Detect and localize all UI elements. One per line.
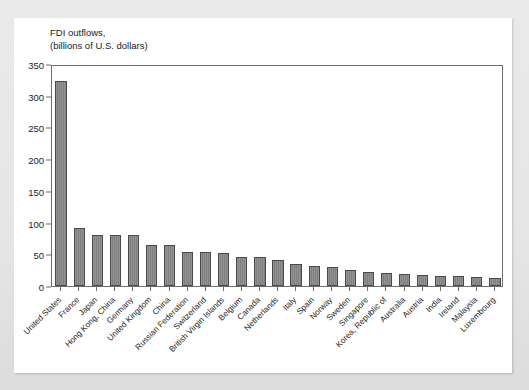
- y-tick-label: 150: [28, 186, 44, 197]
- bar-malaysia: [471, 64, 482, 286]
- x-tick-mark: [385, 287, 386, 291]
- x-tick-mark: [223, 287, 224, 291]
- bars-layer: [52, 66, 502, 286]
- bar-rect: [200, 252, 211, 286]
- x-tick-mark: [367, 287, 368, 291]
- x-tick-mark: [331, 287, 332, 291]
- x-tick-mark: [494, 287, 495, 291]
- x-tick-mark: [96, 287, 97, 291]
- bar-singapore: [363, 64, 374, 286]
- bar-france: [74, 64, 85, 286]
- bar-rect: [381, 273, 392, 286]
- y-tick-mark: [46, 65, 51, 66]
- x-tick-mark: [440, 287, 441, 291]
- bar-hong-kong-china: [110, 64, 121, 286]
- x-tick-mark: [259, 287, 260, 291]
- bar-japan: [92, 64, 103, 286]
- bar-belgium: [236, 64, 247, 286]
- x-tick-mark: [313, 287, 314, 291]
- y-tick-mark: [46, 287, 51, 288]
- x-tick-mark: [295, 287, 296, 291]
- y-tick-mark: [46, 160, 51, 161]
- bar-rect: [453, 276, 464, 286]
- bar-british-virgin-islands: [218, 64, 229, 286]
- bar-rect: [272, 260, 283, 286]
- y-tick-mark: [46, 96, 51, 97]
- bar-switzerland: [200, 64, 211, 286]
- bar-rect: [399, 274, 410, 286]
- x-tick-mark: [476, 287, 477, 291]
- x-tick-mark: [422, 287, 423, 291]
- bar-rect: [164, 245, 175, 286]
- y-tick-label: 50: [33, 250, 44, 261]
- bar-rect: [290, 264, 301, 286]
- bar-italy: [290, 64, 301, 286]
- y-tick-mark: [46, 191, 51, 192]
- bar-rect: [146, 245, 157, 286]
- y-tick-mark: [46, 128, 51, 129]
- bar-rect: [55, 81, 66, 287]
- bar-luxembourg: [489, 64, 500, 286]
- bar-rect: [110, 235, 121, 286]
- y-tick-label: 300: [28, 91, 44, 102]
- title-line-1: FDI outflows,: [50, 26, 148, 39]
- x-tick-mark: [404, 287, 405, 291]
- bar-sweden: [345, 64, 356, 286]
- x-tick-mark: [241, 287, 242, 291]
- y-tick-label: 250: [28, 123, 44, 134]
- x-tick-mark: [114, 287, 115, 291]
- bar-rect: [363, 272, 374, 286]
- page-background: FDI outflows, (billions of U.S. dollars)…: [0, 0, 529, 390]
- bar-rect: [128, 235, 139, 286]
- title-line-2: (billions of U.S. dollars): [50, 39, 148, 52]
- bar-united-states: [55, 64, 66, 286]
- x-tick-mark: [458, 287, 459, 291]
- bar-rect: [74, 228, 85, 286]
- bar-rect: [309, 266, 320, 286]
- bar-russian-federation: [182, 64, 193, 286]
- bar-rect: [182, 252, 193, 286]
- x-tick-mark: [349, 287, 350, 291]
- plot-area: [51, 65, 503, 287]
- bar-korea-republic-of: [381, 64, 392, 286]
- x-tick-mark: [277, 287, 278, 291]
- bar-rect: [417, 275, 428, 286]
- bar-ireland: [453, 64, 464, 286]
- bar-united-kingdom: [146, 64, 157, 286]
- figure-card: FDI outflows, (billions of U.S. dollars)…: [14, 18, 512, 373]
- bar-india: [435, 64, 446, 286]
- bar-rect: [236, 257, 247, 286]
- y-tick-label: 350: [28, 60, 44, 71]
- x-tick-mark: [78, 287, 79, 291]
- x-tick-mark: [187, 287, 188, 291]
- y-tick-label: 100: [28, 218, 44, 229]
- bar-rect: [92, 235, 103, 286]
- y-tick-label: 0: [39, 282, 44, 293]
- bar-rect: [471, 277, 482, 287]
- bar-rect: [327, 267, 338, 286]
- bar-netherlands: [272, 64, 283, 286]
- bar-austria: [417, 64, 428, 286]
- chart-title: FDI outflows, (billions of U.S. dollars)…: [50, 26, 148, 52]
- x-tick-mark: [205, 287, 206, 291]
- bar-rect: [489, 278, 500, 286]
- bar-australia: [399, 64, 410, 286]
- bar-canada: [254, 64, 265, 286]
- bar-norway: [327, 64, 338, 286]
- x-tick-mark: [60, 287, 61, 291]
- bar-rect: [435, 276, 446, 286]
- bar-spain: [309, 64, 320, 286]
- bar-germany: [128, 64, 139, 286]
- x-tick-mark: [169, 287, 170, 291]
- x-tick-mark: [150, 287, 151, 291]
- bar-rect: [345, 270, 356, 286]
- x-tick-mark: [132, 287, 133, 291]
- bar-rect: [218, 253, 229, 286]
- bar-china: [164, 64, 175, 286]
- y-tick-mark: [46, 223, 51, 224]
- y-tick-label: 200: [28, 155, 44, 166]
- bar-rect: [254, 257, 265, 286]
- y-tick-mark: [46, 255, 51, 256]
